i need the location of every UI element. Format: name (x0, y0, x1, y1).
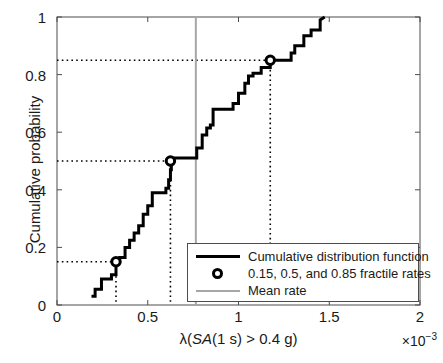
x-axis-title: λ(SA(1 s) > 0.4 g) (57, 330, 420, 347)
y-axis-title: Cumulative probability (26, 50, 43, 290)
plot-canvas (0, 0, 443, 363)
x-exponent-power: −3 (426, 331, 437, 342)
legend-entry-fractiles: 0.15, 0.5, and 0.85 fractile rates (188, 265, 418, 282)
y-tick-label-1: 1 (12, 9, 46, 26)
chart-legend: Cumulative distribution function 0.15, 0… (187, 243, 419, 302)
legend-label-cdf: Cumulative distribution function (248, 248, 429, 265)
legend-key-marker (188, 265, 248, 282)
x-tick-label-2: 2 (416, 308, 424, 325)
legend-key-line (188, 248, 248, 265)
x-tick-label-1_5: 1.5 (319, 308, 340, 325)
cdf-figure: 1 0.8 0.6 0.4 0.2 0 0 0.5 1 1.5 2 Cumula… (0, 0, 443, 363)
y-tick-label-0: 0 (12, 297, 46, 314)
legend-entry-mean: Mean rate (188, 282, 418, 299)
x-tick-label-0: 0 (53, 308, 61, 325)
legend-label-mean: Mean rate (248, 282, 307, 299)
mean-line-swatch-icon (196, 290, 240, 292)
legend-entry-cdf: Cumulative distribution function (188, 248, 418, 265)
x-tick-label-1: 1 (234, 308, 242, 325)
x-tick-label-0_5: 0.5 (137, 308, 158, 325)
open-circle-marker-icon (212, 268, 223, 279)
x-axis-title-sa: SA (192, 330, 212, 347)
x-axis-exponent-multiplier: ×10−3 (402, 331, 437, 349)
legend-label-fractiles: 0.15, 0.5, and 0.85 fractile rates (248, 265, 431, 282)
x-axis-title-lambda: λ( (180, 330, 193, 347)
legend-key-gray-line (188, 282, 248, 299)
cdf-line-swatch-icon (196, 255, 240, 258)
x-exponent-base: ×10 (402, 333, 426, 349)
x-axis-title-rest: (1 s) > 0.4 g) (212, 330, 297, 347)
